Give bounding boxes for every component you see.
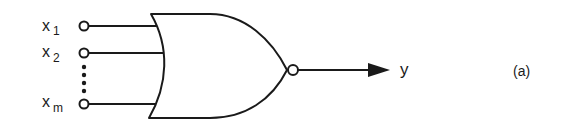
- input-label-x2: x 2: [42, 43, 60, 65]
- nor-gate-diagram: x 1 x 2 x m y (a): [0, 0, 570, 126]
- svg-text:m: m: [53, 101, 63, 115]
- figure-label: (a): [513, 63, 530, 79]
- inversion-bubble: [288, 65, 298, 75]
- output-arrow-icon: [368, 63, 390, 77]
- input-label-xm: x m: [42, 93, 63, 115]
- ellipsis-dots: [82, 65, 86, 93]
- input-terminal-x2: [80, 49, 89, 58]
- svg-text:x: x: [42, 43, 50, 60]
- output-label-y: y: [400, 60, 409, 79]
- input-label-x1: x 1: [42, 17, 60, 38]
- svg-text:x: x: [42, 17, 50, 34]
- svg-text:x: x: [42, 93, 50, 110]
- input-terminal-x1: [80, 22, 89, 31]
- input-wires: [89, 26, 164, 104]
- svg-text:1: 1: [53, 24, 60, 38]
- input-terminal-xm: [80, 100, 89, 109]
- nor-gate-body: [149, 14, 287, 118]
- svg-text:2: 2: [53, 51, 60, 65]
